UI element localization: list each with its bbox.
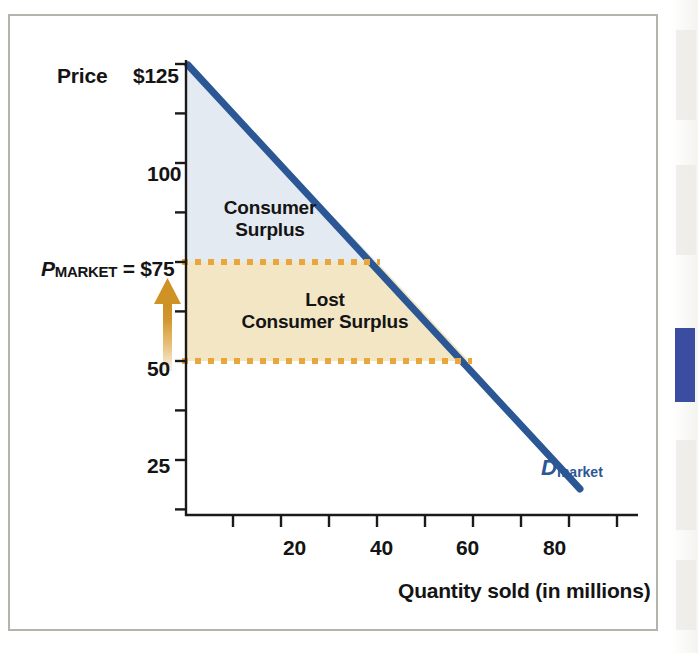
market-price-label: PMARKET = $75: [41, 257, 174, 281]
lost-consumer-surplus-label-line1: Lost: [225, 289, 425, 311]
consumer-surplus-label-line2: Surplus: [200, 219, 340, 241]
lost-consumer-surplus-label: Lost Consumer Surplus: [225, 289, 425, 333]
page-edge-smudge: [676, 165, 696, 255]
lost-consumer-surplus-label-line2: Consumer Surplus: [225, 311, 425, 333]
consumer-surplus-label-line1: Consumer: [200, 197, 340, 219]
y-tick-label-100: 100: [147, 162, 181, 186]
x-axis-ticks: [233, 515, 617, 527]
demand-curve-symbol: D: [541, 455, 557, 480]
x-axis-title: Quantity sold (in millions): [398, 579, 650, 603]
page-edge-tab-marker: [675, 328, 695, 402]
page-edge-strip: [670, 0, 698, 653]
x-tick-label-80: 80: [543, 536, 566, 560]
x-tick-label-20: 20: [283, 536, 306, 560]
demand-curve-subscript: market: [557, 464, 603, 480]
demand-curve-label: Dmarket: [541, 455, 603, 481]
consumer-surplus-label: Consumer Surplus: [200, 197, 340, 241]
market-price-subscript: MARKET: [55, 263, 117, 280]
chart-plot-area: Price $125 100 50 25 PMARKET = $75 20 40…: [10, 16, 660, 633]
y-axis-ticks: [175, 64, 186, 509]
market-price-value: $75: [140, 257, 174, 280]
y-axis-title: Price: [57, 64, 107, 88]
page-edge-smudge: [676, 30, 696, 120]
page-edge-smudge: [676, 560, 696, 630]
market-price-equals: =: [117, 257, 140, 280]
y-tick-label-50: 50: [147, 357, 170, 381]
figure-frame: Price $125 100 50 25 PMARKET = $75 20 40…: [8, 14, 658, 631]
y-tick-label-25: 25: [147, 454, 170, 478]
page-edge-smudge: [676, 440, 696, 530]
x-tick-label-60: 60: [456, 536, 479, 560]
market-price-symbol: P: [41, 257, 55, 280]
x-tick-label-40: 40: [370, 536, 393, 560]
y-tick-label-125: $125: [133, 64, 179, 88]
